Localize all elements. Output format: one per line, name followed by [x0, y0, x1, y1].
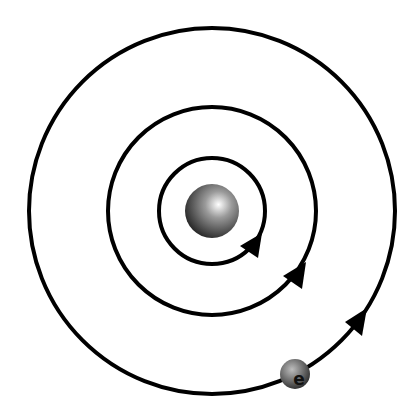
electron: e [280, 359, 310, 389]
nucleus [185, 184, 239, 238]
atom-diagram: e [0, 0, 417, 420]
electron-label: e [293, 369, 305, 389]
